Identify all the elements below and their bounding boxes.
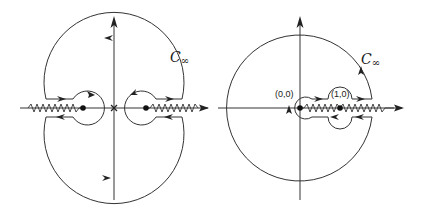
left-branch-point (80, 105, 86, 111)
arrow-icon (104, 35, 113, 41)
figure-canvas: C∞ (0,0) (1,0) C∞ (0, 0, 423, 214)
label-origin: (0,0) (275, 89, 294, 99)
right-contour-label: C∞ (361, 51, 380, 68)
arrow-icon (330, 114, 339, 120)
right-branch-point (143, 105, 149, 111)
left-contour-label: C∞ (170, 49, 189, 66)
arrow-icon (286, 105, 292, 114)
label-one: (1,0) (331, 89, 350, 99)
arrow-icon (358, 66, 364, 75)
arrow-icon (102, 175, 111, 181)
right-panel (218, 16, 404, 200)
left-panel (20, 12, 209, 203)
point-one (337, 105, 343, 111)
point-origin (297, 105, 303, 111)
